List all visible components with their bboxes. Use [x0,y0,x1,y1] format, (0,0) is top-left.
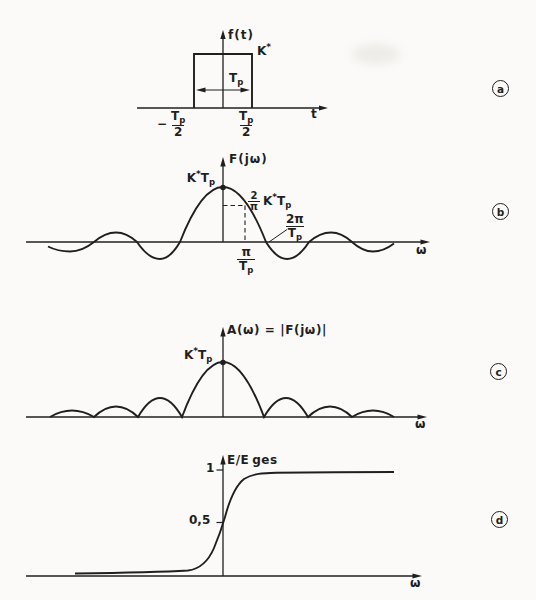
a-y-axis-label: f(t) [228,29,254,43]
frac-num: T [239,109,247,123]
d-ylabel-base: E/E [227,453,249,467]
b-point-sub: p [285,200,291,210]
frac-num-sub: p [179,115,185,125]
b-point-base: K [263,194,272,208]
a-tick-label-left: − Tp 2 [157,110,186,139]
c-x-axis-label: ω [415,418,426,432]
d-y-axis-label: E/Eges [227,454,278,468]
frac-den: 2 [240,125,252,139]
fourier-pulse-figure: f(t) K* Tp t − Tp 2 Tp 2 F(jω) K*Tp 2 π … [0,0,536,600]
b-x-axis-label: ω [416,244,427,258]
b-zero-crossing-label: 2π Tp [285,213,305,242]
panel-c-plot [26,327,427,420]
frac-den-sub: p [296,232,302,242]
d-tick-half-label: 0,5 [189,514,210,528]
b-peak-sub: p [209,177,215,187]
c-y-axis-arrow [220,327,225,337]
a-width-label: Tp [229,72,243,88]
a-width-sub: p [237,77,243,87]
c-peak-label: K*Tp [184,346,212,365]
d-y-axis-arrow [220,455,225,465]
frac-num: 2π [285,213,305,226]
a-x-axis-label: t [311,108,318,122]
frac-num-sub: p [247,115,253,125]
frac-num: π [240,246,252,259]
c-abs-sinc-curve [50,362,394,417]
d-x-axis-label: ω [410,577,421,591]
b-point-value-label: 2 π K*Tp [248,191,291,212]
b-y-axis-arrow [220,157,225,167]
frac-den: 2 [172,125,184,139]
panel-marker-d: d [491,511,508,528]
frac-den-sub: p [247,265,253,275]
b-peak-label: K*Tp [178,169,215,188]
fraction-2pi-over-tp: 2π Tp [285,213,305,242]
b-point-base2: T [277,194,285,208]
a-amp-sup: * [266,42,271,52]
a-width-arrow-left [196,87,206,92]
b-peak-base: K [187,171,196,185]
b-peak-base2: T [201,171,209,185]
figure-canvas [0,0,536,600]
marker-letter-b: b [497,206,505,218]
d-ylabel-sub: ges [252,453,277,467]
a-x-axis-arrow [319,105,328,110]
d-energy-curve [75,472,394,574]
fraction-tp-over-2-right: Tp 2 [238,110,254,139]
frac-num: 2 [249,191,258,201]
a-y-axis-arrow [220,30,225,39]
frac-den: π [248,201,260,212]
c-peak-base: K [184,348,193,362]
frac-den: T [239,259,247,273]
panel-marker-b: b [492,203,509,220]
c-peak-base2: T [198,348,206,362]
minus-sign: − [157,118,167,132]
a-amp-base: K [257,44,266,58]
panel-b-plot [26,157,430,259]
panel-d-plot [26,455,422,579]
c-peak-sub: p [206,354,212,364]
b-x-tick-label: π Tp [237,246,255,275]
fraction-tp-over-2-left: Tp 2 [170,110,186,139]
marker-letter-a: a [497,83,504,95]
a-width-base: T [229,71,237,85]
d-tick-one-label: 1 [206,462,214,476]
panel-marker-a: a [492,80,509,97]
c-peak-dot [220,360,226,366]
panel-marker-c: c [490,363,507,380]
c-y-axis-label: A(ω) = |F(jω)| [227,324,327,338]
marker-letter-d: d [496,514,504,526]
frac-den: T [288,226,296,240]
fraction-pi-over-tp: π Tp [237,246,255,275]
b-point-kt: K*Tp [263,192,291,211]
a-amplitude-label: K* [257,42,271,59]
fraction-2-over-pi: 2 π [248,191,260,212]
b-peak-dot [220,185,226,191]
b-y-axis-label: F(jω) [229,153,268,167]
a-tick-label-right: Tp 2 [238,110,254,139]
b-sinc-curve [48,187,394,259]
marker-letter-c: c [495,366,501,378]
a-width-arrow-right [241,87,251,92]
